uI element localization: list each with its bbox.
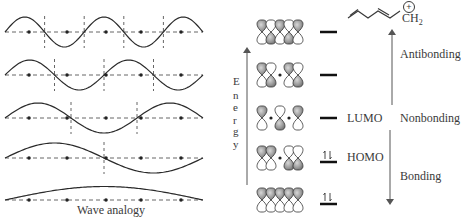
energy-letter: g xyxy=(233,126,239,137)
orbital-lobe-clear xyxy=(293,32,303,44)
orbital-lobe-clear xyxy=(293,146,303,158)
orbital-lobe-shaded xyxy=(275,118,285,130)
orbital-lobe-clear xyxy=(266,158,276,170)
orbital-lobe-shaded xyxy=(257,146,267,158)
orbital-lobe-clear xyxy=(257,32,267,44)
orbital-lobe-clear xyxy=(275,200,285,212)
orbital-lobe-clear xyxy=(284,200,294,212)
wave-row xyxy=(5,102,203,134)
atom-dot xyxy=(65,116,69,120)
orbital-lobe-clear xyxy=(284,20,294,32)
orbital-lobe-clear xyxy=(293,118,303,130)
ch-text: CH xyxy=(402,11,419,25)
molecular-orbital-psi2 xyxy=(257,146,303,170)
atom-dot xyxy=(139,30,143,34)
energy-letter: n xyxy=(233,90,239,101)
wave-curve xyxy=(5,187,203,201)
atom-dot xyxy=(65,73,69,77)
pentadienyl-cation-structure xyxy=(348,9,400,19)
wave-row xyxy=(5,187,203,202)
orbital-lobe-shaded xyxy=(293,20,303,32)
atom-dot xyxy=(179,198,183,202)
molecular-orbital-psi3 xyxy=(257,106,303,130)
atom-dot xyxy=(179,73,183,77)
orbital-lobe-clear xyxy=(257,200,267,212)
atom-dot xyxy=(27,30,31,34)
atom-dot xyxy=(27,116,31,120)
orbital-lobe-shaded xyxy=(284,188,294,200)
orbitals-group xyxy=(257,20,303,212)
orbital-lobe-clear xyxy=(257,75,267,87)
orbital-lobe-shaded xyxy=(257,106,267,118)
wave-row xyxy=(5,142,203,174)
nonbonding-label: Nonbonding xyxy=(400,112,460,124)
atom-dot xyxy=(139,73,143,77)
subscript-2: 2 xyxy=(419,18,423,27)
atom-dot xyxy=(139,198,143,202)
orbital-lobe-clear xyxy=(275,106,285,118)
atom-dot xyxy=(179,156,183,160)
atom-dot xyxy=(27,156,31,160)
orbital-lobe-shaded xyxy=(257,20,267,32)
orbital-lobe-clear xyxy=(266,20,276,32)
orbital-lobe-shaded xyxy=(293,188,303,200)
energy-letter: E xyxy=(233,76,240,87)
atom-dot xyxy=(104,156,108,160)
energy-letter: y xyxy=(233,139,239,150)
molecular-orbital-psi1 xyxy=(257,188,303,212)
orbital-lobe-shaded xyxy=(266,75,276,87)
orbital-lobe-shaded xyxy=(266,146,276,158)
molecular-orbital-psi5 xyxy=(257,20,303,44)
orbital-lobe-clear xyxy=(257,158,267,170)
wave-row xyxy=(5,16,203,48)
bonding-label: Bonding xyxy=(400,170,441,182)
antibonding-label: Antibonding xyxy=(400,48,461,60)
atom-dot xyxy=(27,73,31,77)
orbital-lobe-shaded xyxy=(266,32,276,44)
orbital-lobe-clear xyxy=(293,63,303,75)
orbital-lobe-shaded xyxy=(266,188,276,200)
node-dot xyxy=(278,156,281,159)
ch2-label: CH2 xyxy=(402,12,423,27)
energy-level-psi2 xyxy=(320,151,337,162)
atom-dot xyxy=(139,116,143,120)
node-dot xyxy=(287,116,290,119)
orbital-lobe-clear xyxy=(284,146,294,158)
lumo-label: LUMO xyxy=(347,112,382,124)
orbital-lobe-clear xyxy=(257,118,267,130)
orbital-lobe-clear xyxy=(266,63,276,75)
orbital-lobe-shaded xyxy=(275,20,285,32)
orbital-lobe-shaded xyxy=(284,158,294,170)
atom-dot xyxy=(104,30,108,34)
atom-dot xyxy=(104,73,108,77)
orbital-lobe-shaded xyxy=(293,106,303,118)
orbital-lobe-clear xyxy=(275,32,285,44)
atom-dot xyxy=(65,30,69,34)
energy-letter: e xyxy=(233,102,238,113)
orbital-lobe-shaded xyxy=(257,63,267,75)
atom-dot xyxy=(65,198,69,202)
orbital-lobe-shaded xyxy=(257,188,267,200)
orbital-lobe-clear xyxy=(284,75,294,87)
orbital-lobe-shaded xyxy=(275,188,285,200)
molecular-orbital-psi4 xyxy=(257,63,303,87)
orbital-lobe-shaded xyxy=(293,75,303,87)
electron-spin-up-icon xyxy=(324,193,326,201)
atom-dot xyxy=(179,116,183,120)
orbital-lobe-shaded xyxy=(284,32,294,44)
atom-dot xyxy=(104,198,108,202)
electron-spin-down-icon xyxy=(330,151,332,159)
atom-dot xyxy=(65,156,69,160)
atom-dot xyxy=(104,116,108,120)
node-dot xyxy=(269,116,272,119)
orbital-lobe-shaded xyxy=(293,158,303,170)
atom-dot xyxy=(139,156,143,160)
orbital-lobe-clear xyxy=(293,200,303,212)
wave-analogy-group xyxy=(5,16,203,202)
orbital-lobe-clear xyxy=(266,200,276,212)
electron-spin-down-icon xyxy=(330,193,332,201)
orbital-lobe-shaded xyxy=(284,63,294,75)
atom-dot xyxy=(179,30,183,34)
energy-level-psi1 xyxy=(320,193,337,204)
wave-analogy-caption: Wave analogy xyxy=(77,204,145,216)
